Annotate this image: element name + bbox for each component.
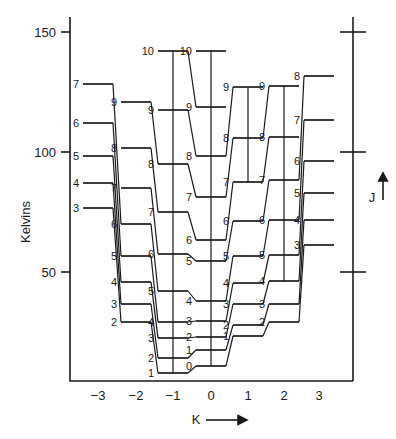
energy-level-j-label: 2: [223, 319, 229, 331]
energy-level-j-label: 6: [148, 248, 154, 260]
energy-level-j-label: 7: [259, 174, 265, 186]
energy-level-j-label: 4: [223, 277, 229, 289]
energy-level-j-label: 1: [186, 344, 192, 356]
energy-level-j-label: 5: [294, 187, 300, 199]
x-tick-label: −1: [166, 388, 181, 403]
energy-level-j-label: 3: [186, 315, 192, 327]
energy-level-j-label: 5: [259, 249, 265, 261]
energy-level-j-label: 3: [73, 202, 79, 214]
energy-level-j-label: 4: [294, 214, 300, 226]
energy-level-j-label: 9: [223, 81, 229, 93]
energy-level-j-label: 1: [223, 330, 229, 342]
energy-level-j-label: 8: [294, 70, 300, 82]
energy-level-j-label: 7: [294, 114, 300, 126]
x-tick-label: 2: [280, 388, 287, 403]
energy-level-j-label: 5: [186, 255, 192, 267]
energy-level-j-label: 4: [186, 295, 192, 307]
energy-level-j-label: 6: [223, 215, 229, 227]
energy-level-j-label: 10: [180, 45, 192, 57]
energy-level-j-label: 3: [148, 332, 154, 344]
energy-level-j-label: 7: [148, 206, 154, 218]
right-axis-title: J: [369, 190, 376, 205]
energy-level-j-label: 4: [148, 316, 154, 328]
energy-level-j-label: 8: [186, 150, 192, 162]
figure-background: [0, 0, 396, 439]
energy-level-j-label: 5: [111, 250, 117, 262]
energy-level-j-label: 7: [186, 191, 192, 203]
energy-level-j-label: 8: [148, 158, 154, 170]
x-tick-label: −2: [129, 388, 144, 403]
energy-level-j-label: 2: [259, 316, 265, 328]
y-tick-label: 100: [34, 145, 56, 160]
energy-level-j-label: 5: [223, 250, 229, 262]
energy-level-j-label: 9: [148, 104, 154, 116]
energy-level-j-label: 8: [259, 131, 265, 143]
energy-level-j-label: 1: [148, 367, 154, 379]
energy-level-j-label: 9: [259, 80, 265, 92]
energy-level-j-label: 4: [111, 276, 117, 288]
y-tick-label: 50: [42, 265, 56, 280]
energy-level-j-label: 6: [259, 214, 265, 226]
energy-level-j-label: 6: [73, 117, 79, 129]
energy-level-j-label: 3: [223, 298, 229, 310]
energy-level-diagram: 15010050 −3−2−10123 34567234567891234567…: [0, 0, 396, 439]
energy-level-j-label: 2: [186, 331, 192, 343]
energy-level-j-label: 5: [73, 150, 79, 162]
energy-level-j-label: 2: [148, 352, 154, 364]
energy-level-j-label: 3: [111, 298, 117, 310]
energy-level-j-label: 8: [111, 142, 117, 154]
energy-level-j-label: 7: [73, 78, 79, 90]
energy-level-j-label: 5: [148, 285, 154, 297]
x-axis-title: K: [192, 412, 201, 427]
y-axis-title: Kelvins: [18, 201, 33, 243]
energy-level-j-label: 7: [223, 176, 229, 188]
y-tick-label: 150: [34, 25, 56, 40]
energy-level-j-label: 0: [186, 360, 192, 372]
energy-level-j-label: 8: [223, 132, 229, 144]
energy-level-j-label: 6: [294, 155, 300, 167]
x-tick-label: 0: [207, 388, 214, 403]
energy-level-j-label: 4: [73, 177, 79, 189]
energy-level-j-label: 7: [111, 182, 117, 194]
x-tick-label: 3: [315, 388, 322, 403]
energy-level-j-label: 2: [111, 316, 117, 328]
energy-level-j-label: 9: [186, 101, 192, 113]
energy-level-j-label: 3: [294, 239, 300, 251]
energy-level-j-label: 9: [111, 96, 117, 108]
x-tick-label: 1: [244, 388, 251, 403]
energy-level-j-label: 6: [111, 218, 117, 230]
energy-level-j-label: 10: [142, 45, 154, 57]
energy-level-j-label: 3: [259, 298, 265, 310]
energy-level-j-label: 4: [259, 275, 265, 287]
energy-level-j-label: 6: [186, 234, 192, 246]
x-tick-label: −3: [91, 388, 106, 403]
